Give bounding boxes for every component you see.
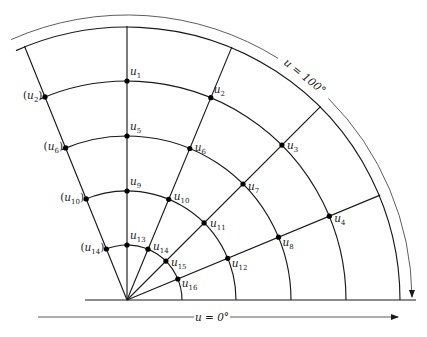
node-label-u5: u5	[130, 120, 141, 135]
boundary-annotation-100: u = 100°	[11, 15, 412, 297]
node-label-u11: u11	[210, 217, 226, 232]
node-label-u4: u4	[334, 212, 346, 227]
grid-node-u14i	[104, 246, 109, 251]
boundary-label-0: u = 0°	[195, 311, 229, 323]
polar-grid-diagram: u = 100° u = 0° u1u2u3u4u5u6u7u8u9u10u11…	[0, 0, 427, 337]
node-label-u12: u12	[232, 257, 248, 272]
node-label-u13: u13	[130, 229, 146, 244]
grid-node-u6i	[63, 145, 68, 150]
grid-node-u1	[124, 78, 129, 83]
grid-node-u10	[166, 197, 171, 202]
grid-node-u15	[163, 259, 168, 264]
node-label-u2i: (u2)	[23, 89, 42, 104]
node-label-u7: u7	[248, 180, 259, 195]
node-label-u2: u2	[214, 83, 225, 98]
node-label-u1: u1	[130, 65, 141, 80]
grid-node-u3	[279, 143, 284, 148]
grid-node-u11	[202, 220, 207, 225]
grid-node-u6	[187, 146, 192, 151]
grid-node-u16	[175, 276, 180, 281]
node-label-u15: u15	[171, 256, 187, 271]
node-label-u6: u6	[195, 141, 207, 156]
grid-node-u7	[240, 181, 245, 186]
grid-node-u2	[208, 95, 213, 100]
node-label-u6i: (u6)	[44, 140, 63, 155]
boundary-label-100: u = 100°	[281, 56, 328, 97]
grid-node-u14	[145, 247, 150, 252]
grid-node-u5	[124, 133, 129, 138]
grid-arc	[40, 81, 346, 300]
node-label-u8: u8	[283, 236, 294, 251]
grid-node-u8	[276, 235, 281, 240]
grid-node-u10i	[84, 196, 89, 201]
grid-rays	[24, 26, 380, 300]
node-label-u16: u16	[182, 277, 198, 292]
grid-arcs	[16, 27, 400, 300]
grid-node-u9	[124, 188, 129, 193]
grid-node-u12	[225, 256, 230, 261]
grid-arc	[105, 245, 182, 300]
node-label-u14i: (u14)	[80, 241, 104, 256]
boundary-annotation-0: u = 0°	[38, 311, 398, 323]
node-label-u9: u9	[130, 175, 141, 190]
grid-ray	[24, 46, 127, 300]
node-labels: u1u2u3u4u5u6u7u8u9u10u11u12u13u14u15u16(…	[23, 65, 346, 292]
grid-ray	[127, 106, 321, 300]
grid-node-u4	[327, 214, 332, 219]
grid-node-u13	[124, 242, 129, 247]
grid-node-u2i	[42, 94, 47, 99]
node-label-u10i: (u10)	[60, 191, 84, 206]
